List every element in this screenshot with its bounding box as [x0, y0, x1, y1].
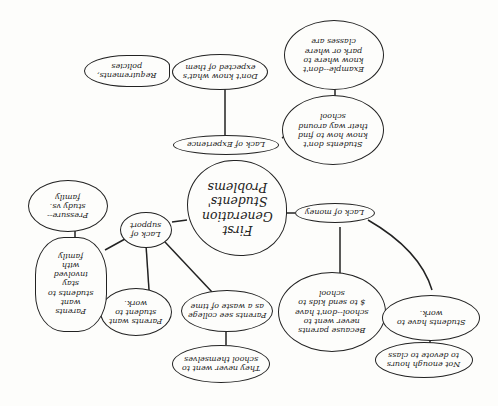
branch-lack-of-money: Lack of money [295, 203, 375, 223]
node-example-parking: Example--don't know where to park or whe… [284, 20, 384, 90]
branch-lack-of-experience: Lack of Experience [173, 135, 279, 155]
concept-map: First Generation Students' Problems Lack… [0, 0, 498, 406]
central-topic-label: First Generation Students' Problems [202, 179, 273, 237]
node-pressure-study-family: Pressure-- study vs. family [28, 180, 108, 232]
node-find-way-around: Students don't know how to find their wa… [282, 95, 384, 165]
node-students-have-to-work: Students have to work. [382, 295, 480, 341]
node-not-enough-hours: Not enough hours to devote to class [375, 342, 473, 378]
node-never-went-themselves: They never went to school themselves [172, 345, 270, 383]
node-requirements-policies: Requirements, policies [84, 55, 170, 87]
node-college-waste-of-time: Parents see college as a waste of time [181, 290, 273, 332]
node-parents-want-work: Parents want student to work. [100, 288, 172, 336]
node-parents-never-went-money: Because parents never went to school--do… [278, 272, 386, 352]
node-dont-know-expected: Don't know what's expected of them [172, 54, 268, 90]
node-stay-involved-family: Parents want students to stay involved w… [35, 237, 107, 332]
branch-lack-of-support: Lack of support [120, 212, 172, 248]
